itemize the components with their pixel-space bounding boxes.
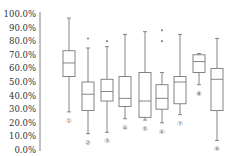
category-label: ⑥ <box>159 128 165 136</box>
category-label: ③ <box>104 137 110 145</box>
y-tick-label: 70.0% <box>9 50 36 60</box>
iqr-box <box>139 72 151 117</box>
iqr-box <box>119 77 131 107</box>
y-tick-label: 90.0% <box>9 23 36 33</box>
outlier-point <box>106 40 108 42</box>
y-tick-label: 30.0% <box>9 104 36 114</box>
box-1: ① <box>63 18 75 125</box>
category-label: ⑨ <box>214 145 220 153</box>
iqr-box <box>63 51 75 77</box>
outlier-point <box>161 40 163 42</box>
iqr-box <box>211 68 223 110</box>
y-tick-label: 40.0% <box>9 91 36 101</box>
iqr-box <box>82 82 94 111</box>
y-tick-label: 0.0% <box>14 145 36 155</box>
outlier-point <box>87 37 89 39</box>
category-label: ① <box>66 117 72 125</box>
boxes-group: ①②③④⑤⑥⑦⑧⑨ <box>63 18 223 153</box>
box-9: ⑨ <box>211 38 223 153</box>
y-tick-label: 50.0% <box>9 77 36 87</box>
box-8: ⑧ <box>193 53 205 97</box>
box-plot-chart: 0.0%10.0%20.0%30.0%40.0%50.0%60.0%70.0%8… <box>0 0 232 156</box>
category-label: ④ <box>122 124 128 132</box>
category-label: ⑦ <box>177 120 183 128</box>
box-6: ⑥ <box>156 29 168 136</box>
y-tick-label: 80.0% <box>9 36 36 46</box>
category-label: ② <box>85 139 91 147</box>
y-tick-label: 60.0% <box>9 63 36 73</box>
y-tick-label: 100.0% <box>4 9 36 19</box>
y-axis: 0.0%10.0%20.0%30.0%40.0%50.0%60.0%70.0%8… <box>4 9 40 155</box>
box-5: ⑤ <box>139 32 151 133</box>
iqr-box <box>101 79 113 101</box>
box-3: ③ <box>101 40 113 145</box>
y-tick-label: 10.0% <box>9 131 36 141</box>
y-tick-label: 20.0% <box>9 118 36 128</box>
box-7: ⑦ <box>174 34 186 127</box>
category-label: ⑤ <box>142 125 148 133</box>
outlier-point <box>161 29 163 31</box>
category-label: ⑧ <box>196 90 202 98</box>
iqr-box <box>156 85 168 109</box>
box-4: ④ <box>119 34 131 131</box>
iqr-box <box>174 77 186 104</box>
box-2: ② <box>82 37 94 146</box>
iqr-box <box>193 55 205 73</box>
